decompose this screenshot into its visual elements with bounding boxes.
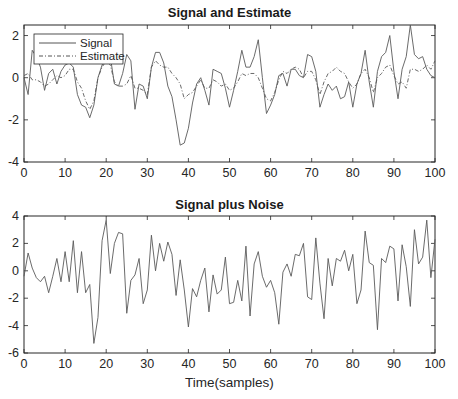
- x-tick-label: 80: [346, 166, 360, 180]
- y-tick-label: 0: [12, 264, 19, 278]
- signal-and-estimate-axes: Signal and Estimate 01020304050607080901…: [8, 5, 446, 180]
- y-tick-label: 2: [12, 236, 19, 250]
- x-axis-label: Time(samples): [185, 375, 274, 390]
- bottom-plot-area: [24, 216, 435, 353]
- y-tick-label: -6: [8, 346, 19, 360]
- x-tick-label: 100: [425, 357, 446, 371]
- legend-estimate-label: Estimate: [80, 50, 125, 62]
- x-tick-label: 90: [387, 357, 401, 371]
- top-legend: Signal Estimate: [34, 34, 125, 64]
- y-tick-label: 4: [12, 209, 19, 223]
- x-tick-label: 70: [305, 357, 319, 371]
- x-tick-label: 30: [140, 166, 154, 180]
- legend-signal-label: Signal: [80, 37, 112, 49]
- y-tick-label: -4: [8, 155, 19, 169]
- x-tick-label: 90: [387, 166, 401, 180]
- top-chart-title: Signal and Estimate: [168, 5, 292, 20]
- x-tick-label: 80: [346, 357, 360, 371]
- y-tick-label: -2: [8, 291, 19, 305]
- y-tick-label: 2: [12, 29, 19, 43]
- x-tick-label: 100: [425, 166, 446, 180]
- chart-figure: Signal and Estimate 01020304050607080901…: [0, 0, 458, 399]
- x-tick-label: 60: [264, 357, 278, 371]
- x-tick-label: 30: [140, 357, 154, 371]
- x-tick-label: 50: [223, 166, 237, 180]
- x-tick-label: 0: [21, 357, 28, 371]
- x-tick-label: 20: [99, 166, 113, 180]
- x-tick-label: 20: [99, 357, 113, 371]
- y-tick-label: 0: [12, 71, 19, 85]
- x-tick-label: 40: [181, 166, 195, 180]
- y-tick-label: -2: [8, 113, 19, 127]
- y-tick-label: -4: [8, 319, 19, 333]
- x-tick-label: 0: [21, 166, 28, 180]
- x-tick-label: 40: [181, 357, 195, 371]
- x-tick-label: 50: [223, 357, 237, 371]
- signal-plus-noise-axes: Signal plus Noise 0102030405060708090100…: [8, 197, 446, 390]
- bottom-chart-title: Signal plus Noise: [175, 197, 283, 212]
- x-tick-label: 10: [58, 357, 72, 371]
- x-tick-label: 10: [58, 166, 72, 180]
- x-tick-label: 60: [264, 166, 278, 180]
- x-tick-label: 70: [305, 166, 319, 180]
